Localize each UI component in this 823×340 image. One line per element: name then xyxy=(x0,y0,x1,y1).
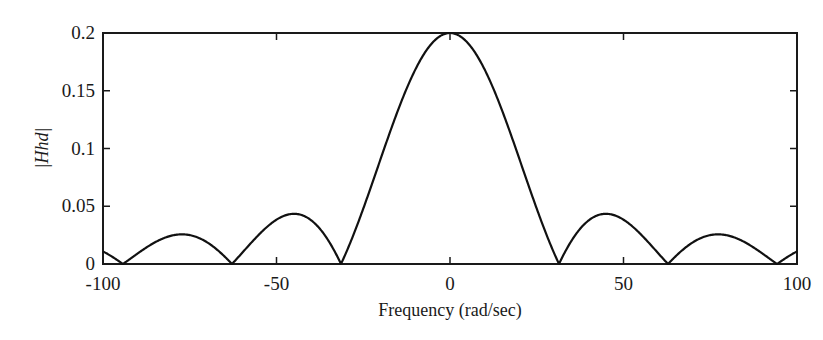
y-tick-label: 0.05 xyxy=(62,195,95,216)
y-tick-label: 0 xyxy=(86,253,96,274)
y-tick-label: 0.2 xyxy=(71,22,95,43)
data-line-hhd xyxy=(103,33,797,264)
plot-frame xyxy=(103,33,797,264)
y-tick-label: 0.15 xyxy=(62,80,95,101)
x-tick-label: 0 xyxy=(445,273,455,294)
x-axis-ticks: -100-50050100 xyxy=(86,33,812,294)
x-tick-label: 100 xyxy=(783,273,812,294)
chart: -100-50050100 00.050.10.150.2 Frequency … xyxy=(0,0,823,340)
y-tick-label: 0.1 xyxy=(71,138,95,159)
x-tick-label: -100 xyxy=(86,273,121,294)
x-tick-label: -50 xyxy=(264,273,289,294)
x-tick-label: 50 xyxy=(614,273,633,294)
x-axis-title: Frequency (rad/sec) xyxy=(378,300,521,321)
y-axis-title: |Hhd| xyxy=(32,128,52,169)
